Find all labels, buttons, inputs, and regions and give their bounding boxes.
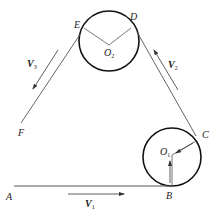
velocity-arrow-v3 — [33, 50, 58, 89]
belt-cd — [137, 32, 196, 136]
label-v3: V3 — [27, 58, 37, 70]
label-e: E — [73, 19, 80, 30]
label-o2: O2 — [104, 47, 114, 59]
label-o1: O1 — [160, 146, 170, 158]
label-f: F — [17, 127, 25, 138]
arrow-c-to-o1 — [176, 143, 193, 153]
radius-o2-d — [109, 28, 131, 45]
label-c: C — [202, 129, 209, 140]
radius-o2-e — [84, 28, 109, 45]
label-b: B — [166, 190, 172, 201]
label-d: D — [129, 11, 138, 22]
belt-ef — [21, 33, 81, 123]
label-v2: V2 — [168, 59, 178, 71]
label-v1: V1 — [85, 198, 95, 210]
belt-pulley-diagram: A B C D E F O2 O1 V1 V2 V3 — [0, 0, 220, 219]
label-a: A — [5, 191, 13, 202]
